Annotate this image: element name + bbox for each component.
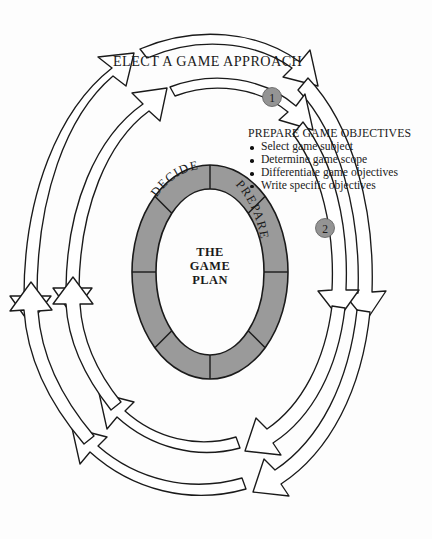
heading-elect-a-game-approach: ELECT A GAME APPROACH — [113, 53, 302, 70]
step-marker-1-label: 1 — [269, 92, 275, 104]
callout-item-label: Determine game scope — [261, 153, 367, 166]
bullet-icon — [250, 159, 254, 163]
step-marker-1[interactable]: 1 — [263, 88, 282, 107]
inner-arrow-top-right — [170, 78, 313, 130]
center-label-the-game-plan: THE GAME PLAN — [156, 245, 264, 288]
center-label-line-2: GAME — [156, 259, 264, 273]
callout-list-item: Write specific objectives — [248, 180, 411, 193]
inner-arrow-left — [53, 277, 121, 410]
center-label-line-1: THE — [156, 245, 264, 259]
diagram-canvas: DECIDE PREPARE 1 2 ELECT A GAME APPROACH… — [0, 0, 432, 539]
bullet-icon — [250, 172, 254, 176]
callout-item-label: Differentiate game objectives — [261, 166, 398, 179]
bullet-icon — [250, 146, 254, 150]
step-marker-2-label: 2 — [322, 223, 328, 235]
callout-list: Select game subject Determine game scope… — [248, 141, 411, 193]
callout-title: PREPARE GAME OBJECTIVES — [248, 127, 411, 140]
callout-prepare-game-objectives: PREPARE GAME OBJECTIVES Select game subj… — [248, 127, 411, 193]
step-marker-2[interactable]: 2 — [316, 219, 335, 238]
callout-item-label: Write specific objectives — [261, 179, 376, 192]
callout-item-label: Select game subject — [261, 140, 353, 153]
center-label-line-3: PLAN — [156, 273, 264, 287]
bullet-icon — [250, 185, 254, 189]
